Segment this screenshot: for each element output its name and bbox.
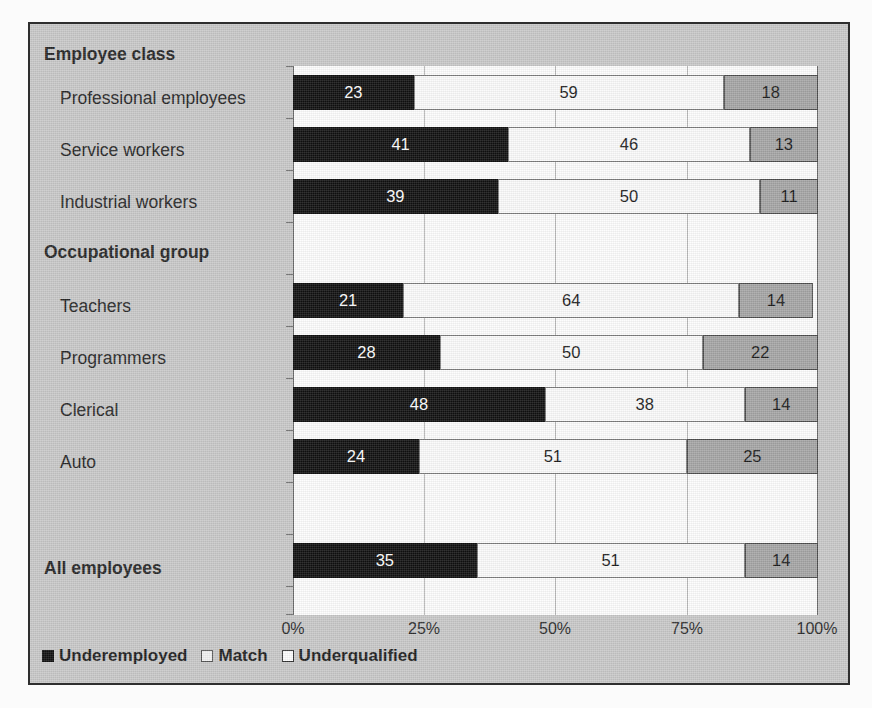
category-label-clerical: Clerical [40, 402, 292, 420]
y-tickmark-1 [286, 118, 293, 119]
x-axis-tick-labels: 0% 25% 50% 75% 100% [293, 620, 818, 642]
bar-teachers[interactable]: 21 64 14 [293, 283, 818, 318]
y-tickmark-10 [286, 586, 293, 587]
bar-industrial-workers[interactable]: 39 50 11 [293, 179, 818, 214]
bar-clerical[interactable]: 48 38 14 [293, 387, 818, 422]
bar-segment-underqualified: 14 [745, 543, 819, 578]
bar-segment-match: 64 [403, 283, 739, 318]
legend-label-underemployed: Underemployed [59, 646, 187, 666]
plot-area: 23 59 18 41 46 13 39 50 11 21 64 14 28 5… [293, 66, 818, 615]
category-group-header-employee-class: Employee class [40, 46, 292, 64]
legend-swatch-underemployed-icon [42, 650, 54, 662]
bar-segment-underemployed: 35 [293, 543, 477, 578]
bar-programmers[interactable]: 28 50 22 [293, 335, 818, 370]
legend-swatch-underqualified-icon [282, 650, 294, 662]
bar-segment-underemployed: 48 [293, 387, 545, 422]
bar-segment-underqualified: 18 [724, 75, 819, 110]
bar-segment-underemployed: 23 [293, 75, 414, 110]
bar-segment-match: 51 [419, 439, 687, 474]
chart-figure: Employee class Professional employees Se… [28, 22, 850, 685]
legend-item-underemployed[interactable]: Underemployed [42, 646, 187, 666]
category-label-auto: Auto [40, 454, 292, 472]
y-tickmark-4 [286, 274, 293, 275]
bar-segment-underemployed: 21 [293, 283, 403, 318]
x-tick-label-75: 75% [671, 620, 703, 638]
bar-segment-match: 51 [477, 543, 745, 578]
y-tickmark-7 [286, 430, 293, 431]
bar-segment-underqualified: 13 [750, 127, 818, 162]
category-label-all-employees: All employees [40, 560, 292, 578]
bar-segment-underqualified: 22 [703, 335, 819, 370]
chart-legend: Underemployed Match Underqualified [42, 646, 418, 666]
bar-segment-match: 59 [414, 75, 724, 110]
bar-service-workers[interactable]: 41 46 13 [293, 127, 818, 162]
bar-segment-match: 50 [498, 179, 761, 214]
bar-segment-underqualified: 11 [760, 179, 818, 214]
bar-segment-match: 46 [508, 127, 750, 162]
y-tickmark-3 [286, 222, 293, 223]
bar-segment-underemployed: 39 [293, 179, 498, 214]
bar-professional-employees[interactable]: 23 59 18 [293, 75, 818, 110]
bar-segment-underqualified: 14 [739, 283, 813, 318]
bar-segment-match: 50 [440, 335, 703, 370]
x-tick-label-25: 25% [408, 620, 440, 638]
bar-segment-underemployed: 41 [293, 127, 508, 162]
bar-segment-underqualified: 14 [745, 387, 819, 422]
x-tick-label-50: 50% [539, 620, 571, 638]
category-label-teachers: Teachers [40, 298, 292, 316]
category-group-header-occupational-group: Occupational group [40, 244, 292, 262]
y-tickmark-9 [286, 534, 293, 535]
category-label-programmers: Programmers [40, 350, 292, 368]
category-label-column: Employee class Professional employees Se… [40, 32, 292, 592]
y-tickmark-2 [286, 170, 293, 171]
y-tickmark-5 [286, 326, 293, 327]
category-label-service-workers: Service workers [40, 142, 292, 160]
y-tickmark-11 [286, 614, 293, 615]
category-label-industrial-workers: Industrial workers [40, 194, 292, 212]
legend-item-underqualified[interactable]: Underqualified [282, 646, 418, 666]
x-tick-label-100: 100% [797, 620, 838, 638]
y-tickmark-8 [286, 482, 293, 483]
bar-segment-match: 38 [545, 387, 745, 422]
bar-segment-underemployed: 28 [293, 335, 440, 370]
bar-segment-underqualified: 25 [687, 439, 818, 474]
y-tickmark-0 [286, 66, 293, 67]
y-tickmark-6 [286, 378, 293, 379]
x-tick-label-0: 0% [281, 620, 304, 638]
legend-label-match: Match [218, 646, 267, 666]
bar-segment-underemployed: 24 [293, 439, 419, 474]
legend-item-match[interactable]: Match [201, 646, 267, 666]
category-label-professional-employees: Professional employees [40, 90, 292, 108]
legend-swatch-match-icon [201, 650, 213, 662]
legend-label-underqualified: Underqualified [299, 646, 418, 666]
bar-all-employees[interactable]: 35 51 14 [293, 543, 818, 578]
bar-auto[interactable]: 24 51 25 [293, 439, 818, 474]
